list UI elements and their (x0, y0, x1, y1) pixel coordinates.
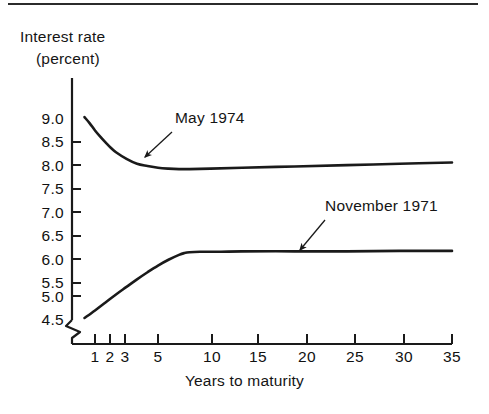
x-tick-marks (95, 334, 452, 344)
y-tick-label-7-5: 7.5 (20, 180, 64, 198)
x-tick-label-30: 30 (384, 348, 424, 366)
x-tick-label-15: 15 (238, 348, 278, 366)
y-tick-label-5-0: 5.0 (20, 288, 64, 306)
y-tick-marks (72, 142, 81, 296)
axis-break-symbol (66, 320, 80, 344)
series-line-november-1971 (85, 251, 453, 318)
y-tick-label-4-5: 4.5 (20, 311, 64, 329)
chart-figure: Interest rate (percent) (0, 0, 489, 414)
y-tick-label-8-0: 8.0 (20, 157, 64, 175)
annotation-arrows (145, 132, 325, 250)
annotation-arrow-may-1974 (145, 132, 172, 157)
annotation-arrow-november-1971 (300, 220, 325, 250)
x-tick-label-25: 25 (335, 348, 375, 366)
y-tick-label-7-0: 7.0 (20, 204, 64, 222)
y-tick-label-6-0: 6.0 (20, 251, 64, 269)
y-tick-label-6-5: 6.5 (20, 227, 64, 245)
series-label-may-1974: May 1974 (175, 109, 245, 127)
x-tick-label-5: 5 (138, 348, 178, 366)
x-tick-label-20: 20 (287, 348, 327, 366)
y-tick-label-8-5: 8.5 (20, 133, 64, 151)
series-label-november-1971: November 1971 (325, 197, 438, 215)
series-line-may-1974 (85, 117, 453, 169)
x-axis-title: Years to maturity (0, 372, 489, 390)
x-tick-label-35: 35 (432, 348, 472, 366)
x-tick-label-10: 10 (192, 348, 232, 366)
y-tick-label-9-0: 9.0 (20, 110, 64, 128)
